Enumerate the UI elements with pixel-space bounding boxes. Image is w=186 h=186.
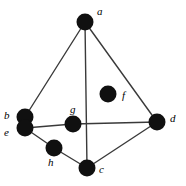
graph-node-label-c: c (99, 164, 104, 175)
graph-node-label-f: f (122, 90, 125, 101)
graph-edge-g-d (73, 122, 157, 124)
graph-edge-a-b (25, 22, 85, 117)
graph-edge-c-d (87, 122, 157, 168)
graph-node-f (100, 86, 117, 103)
graph-node-h (46, 140, 63, 157)
graph-node-label-g: g (70, 104, 76, 115)
edge-layer (25, 22, 157, 168)
graph-node-label-e: e (4, 127, 9, 138)
graph-node-a (77, 14, 94, 31)
graph-node-d (149, 114, 166, 131)
graph-node-label-d: d (170, 113, 176, 124)
graph-canvas (0, 0, 186, 186)
graph-node-label-b: b (4, 110, 10, 121)
graph-diagram: abcdefgh (0, 0, 186, 186)
graph-edge-a-d (85, 22, 157, 122)
graph-node-e (17, 120, 34, 137)
graph-edge-a-c (85, 22, 87, 168)
graph-node-label-a: a (97, 6, 103, 17)
graph-node-label-h: h (48, 157, 54, 168)
graph-node-g (65, 116, 82, 133)
graph-node-c (79, 160, 96, 177)
